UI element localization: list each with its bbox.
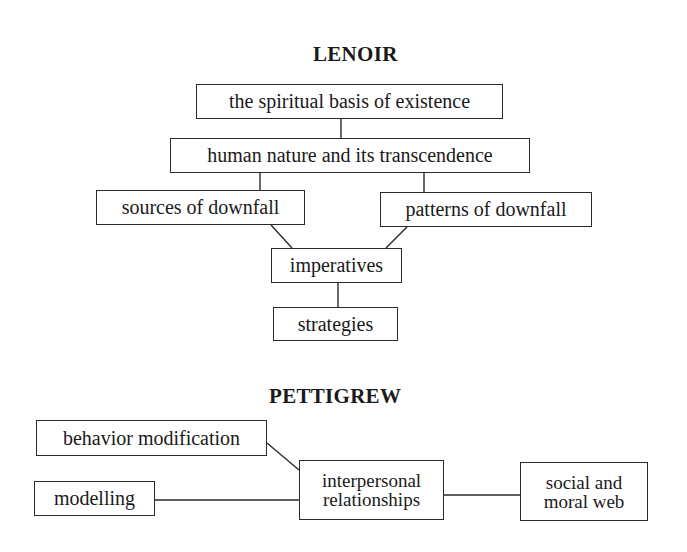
node-patterns-of-downfall: patterns of downfall [380, 192, 592, 227]
node-label: patterns of downfall [405, 199, 566, 220]
node-label-line1: interpersonal [322, 471, 421, 490]
node-interpersonal-relationships: interpersonal relationships [299, 460, 444, 520]
node-behavior-modification: behavior modification [36, 420, 267, 456]
node-label-line1: social and [546, 473, 623, 492]
node-label: sources of downfall [122, 197, 280, 218]
node-social-moral-web: social and moral web [520, 462, 648, 521]
node-human-nature: human nature and its transcendence [170, 138, 530, 173]
node-label: human nature and its transcendence [207, 145, 492, 166]
node-label-line2: relationships [323, 490, 420, 509]
edge-behavior-to-interpersonal [267, 443, 299, 470]
node-label: strategies [298, 314, 374, 335]
node-spiritual-basis: the spiritual basis of existence [196, 84, 503, 119]
node-imperatives: imperatives [271, 248, 402, 283]
edge-patterns-to-imperatives [386, 227, 407, 248]
node-label: imperatives [290, 255, 383, 276]
node-label-line2: moral web [544, 492, 625, 511]
node-sources-of-downfall: sources of downfall [96, 190, 305, 225]
lenoir-title: LENOIR [313, 44, 398, 65]
node-modelling: modelling [34, 481, 155, 516]
node-label: behavior modification [63, 428, 240, 449]
node-strategies: strategies [273, 307, 398, 341]
edge-sources-to-imperatives [271, 225, 292, 248]
node-label: the spiritual basis of existence [229, 91, 470, 112]
node-label: modelling [54, 488, 135, 509]
pettigrew-title: PETTIGREW [269, 386, 401, 407]
